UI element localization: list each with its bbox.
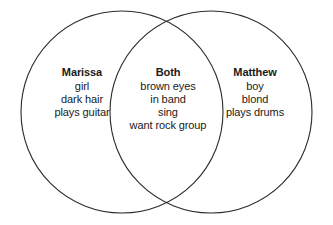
venn-region-center-item-4: want rock group — [126, 119, 210, 132]
venn-region-right-item-3: plays drums — [198, 106, 312, 119]
venn-region-left-item-1: girl — [24, 80, 140, 93]
venn-labels-layer: Marissa girl dark hair plays guitar Both… — [0, 0, 333, 225]
venn-region-left-item-2: dark hair — [24, 93, 140, 106]
venn-region-left-item-3: plays guitar — [24, 106, 140, 119]
venn-region-right-item-2: blond — [198, 93, 312, 106]
venn-region-left: Marissa girl dark hair plays guitar — [24, 66, 140, 119]
venn-region-left-title: Marissa — [24, 66, 140, 79]
venn-region-right: Matthew boy blond plays drums — [198, 66, 312, 119]
venn-diagram: Marissa girl dark hair plays guitar Both… — [0, 0, 333, 225]
venn-region-right-title: Matthew — [198, 66, 312, 79]
venn-region-right-item-1: boy — [198, 80, 312, 93]
